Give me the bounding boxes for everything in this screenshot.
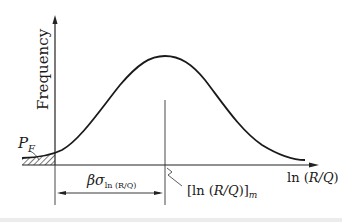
mean-label: [ln (R/Q)]m	[187, 183, 257, 200]
y-axis	[53, 15, 58, 165]
dimension-left-arrow-icon	[57, 191, 66, 195]
beta-sigma-label: βσln (R/Q)	[86, 172, 136, 190]
x-axis-label: ln (R/Q)	[287, 170, 339, 185]
x-axis-arrow-icon	[309, 163, 319, 168]
y-axis-label: Frequency	[34, 28, 52, 110]
failure-probability-label: PF	[17, 134, 36, 154]
beta-sigma-dimension	[57, 191, 163, 195]
dimension-right-arrow-icon	[154, 191, 163, 195]
bottom-border	[0, 218, 342, 222]
distribution-curve	[22, 56, 305, 160]
y-axis-arrow-icon	[53, 15, 58, 24]
reliability-distribution-diagram: Frequency PF βσln (R/Q) [ln (R/Q)]m ln (…	[0, 0, 342, 222]
mean-leader-line	[167, 168, 182, 186]
x-axis	[22, 163, 319, 168]
